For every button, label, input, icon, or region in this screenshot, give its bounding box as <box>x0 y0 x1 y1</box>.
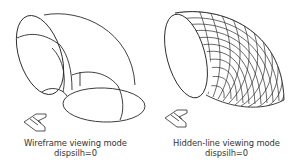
caption-line2: dispsilh=0 <box>151 148 302 158</box>
caption-line1: Wireframe viewing mode <box>0 138 151 148</box>
caption-line1: Hidden-line viewing mode <box>151 138 302 148</box>
hidden-line-figure: Hidden-line viewing mode dispsilh=0 <box>151 0 302 167</box>
wireframe-figure: Wireframe viewing mode dispsilh=0 <box>0 0 151 167</box>
ucs-axis-icon <box>24 114 46 131</box>
caption-line2: dispsilh=0 <box>0 148 151 158</box>
ucs-axis-icon <box>165 110 187 127</box>
